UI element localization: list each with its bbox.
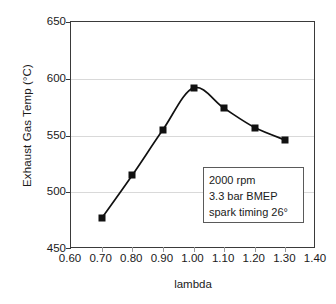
annotation-line-2: 3.3 bar BMEP (209, 188, 303, 204)
data-point (159, 126, 166, 133)
y-tick-label: 600 (28, 72, 66, 84)
annotation-box: 2000 rpm 3.3 bar BMEP spark timing 26° (203, 167, 304, 223)
data-point (98, 215, 105, 222)
data-point (129, 172, 136, 179)
y-tick-label: 650 (28, 15, 66, 27)
y-tick-label: 550 (28, 129, 66, 141)
data-point (221, 105, 228, 112)
data-point (251, 124, 258, 131)
data-point (190, 84, 197, 91)
x-axis-title: lambda (70, 278, 316, 290)
y-axis-title: Exhaust Gas Temp (°C) (14, 3, 40, 248)
annotation-line-1: 2000 rpm (209, 172, 303, 188)
x-tick-label: 1.40 (293, 252, 336, 264)
data-point (282, 137, 289, 144)
y-tick-label: 500 (28, 185, 66, 197)
annotation-line-3: spark timing 26° (209, 204, 303, 220)
chart-figure: Exhaust Gas Temp (°C) 650 600 550 500 45… (0, 0, 336, 304)
